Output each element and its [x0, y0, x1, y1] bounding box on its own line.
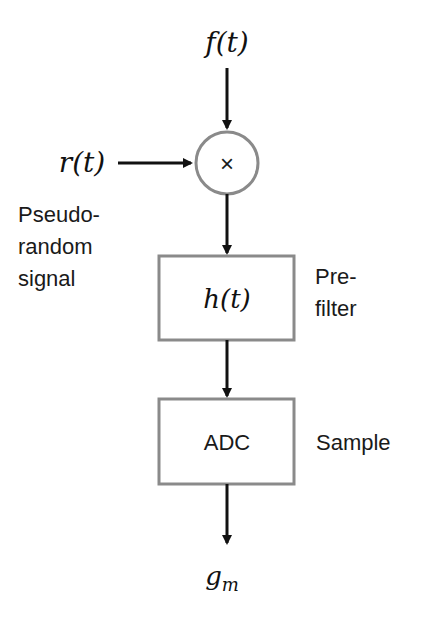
prefilter-label: h(t) — [203, 284, 250, 314]
multiplier-node: × — [196, 132, 258, 194]
prefilter-block: h(t) — [159, 256, 294, 340]
adc-label: ADC — [204, 430, 251, 455]
mixer-caption-line-2: random — [18, 234, 93, 259]
multiply-icon: × — [220, 150, 234, 177]
signal-flow-diagram: f(t) r(t) × Pseudo- random signal h(t) P… — [0, 0, 425, 619]
mixer-caption-line-1: Pseudo- — [18, 202, 100, 227]
adc-block: ADC — [159, 399, 294, 484]
prefilter-caption-line-1: Pre- — [315, 264, 357, 289]
output-signal-label: gm — [205, 561, 239, 595]
adc-caption: Sample — [316, 430, 391, 455]
mixer-caption-line-3: signal — [18, 266, 75, 291]
mixer-signal-label: r(t) — [59, 146, 105, 179]
output-signal-symbol: g — [205, 561, 222, 591]
output-signal-subscript: m — [222, 574, 239, 595]
prefilter-caption-line-2: filter — [315, 296, 357, 321]
input-signal-label: f(t) — [203, 26, 248, 59]
